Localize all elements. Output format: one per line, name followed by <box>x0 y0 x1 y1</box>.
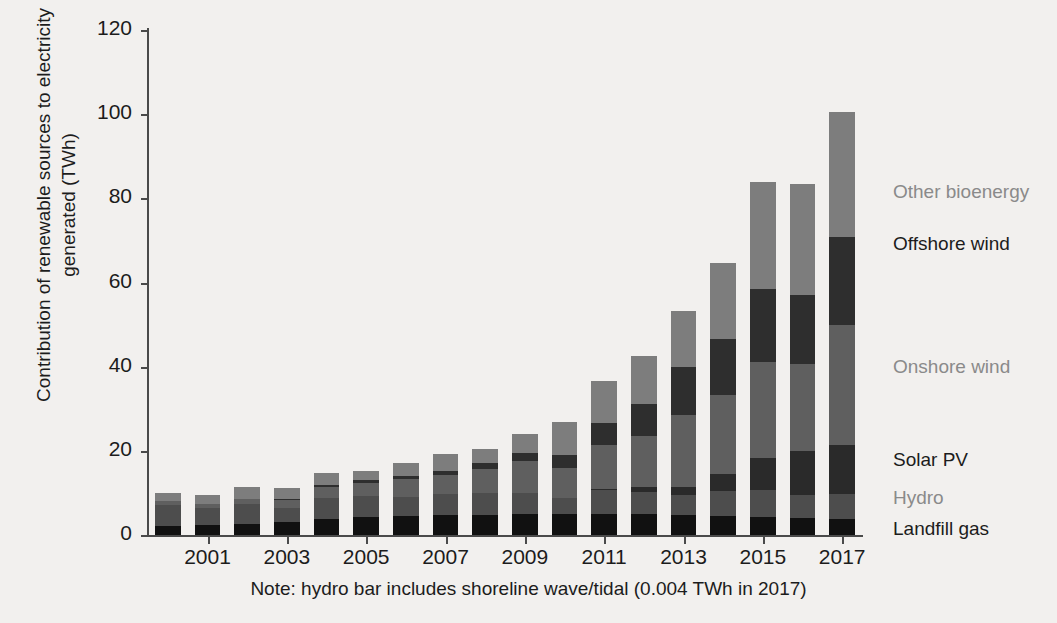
bar-segment-hydro[interactable] <box>790 495 815 518</box>
bar-segment-other-bioenergy[interactable] <box>314 473 339 485</box>
bar-segment-landfill-gas[interactable] <box>393 516 418 535</box>
bar-segment-landfill-gas[interactable] <box>155 526 180 535</box>
bar-2009[interactable] <box>512 30 537 535</box>
bar-segment-landfill-gas[interactable] <box>353 517 378 535</box>
bar-segment-onshore-wind[interactable] <box>710 395 735 473</box>
bar-segment-landfill-gas[interactable] <box>314 519 339 535</box>
bar-segment-onshore-wind[interactable] <box>790 364 815 452</box>
bar-2010[interactable] <box>552 30 577 535</box>
bar-segment-hydro[interactable] <box>155 505 180 526</box>
bar-2005[interactable] <box>353 30 378 535</box>
bar-segment-offshore-wind[interactable] <box>512 453 537 461</box>
bar-segment-solar-pv[interactable] <box>631 487 656 492</box>
bar-segment-hydro[interactable] <box>353 496 378 517</box>
bar-segment-landfill-gas[interactable] <box>512 514 537 535</box>
bar-segment-offshore-wind[interactable] <box>353 480 378 483</box>
bar-segment-offshore-wind[interactable] <box>829 237 854 325</box>
bar-2007[interactable] <box>433 30 458 535</box>
bar-2014[interactable] <box>710 30 735 535</box>
bar-segment-hydro[interactable] <box>314 498 339 518</box>
bar-segment-hydro[interactable] <box>472 493 497 514</box>
bar-segment-onshore-wind[interactable] <box>750 362 775 458</box>
bar-segment-landfill-gas[interactable] <box>472 515 497 535</box>
bar-segment-hydro[interactable] <box>710 491 735 516</box>
bar-segment-onshore-wind[interactable] <box>829 325 854 446</box>
bar-segment-hydro[interactable] <box>195 508 220 525</box>
bar-segment-hydro[interactable] <box>671 495 696 515</box>
bar-segment-landfill-gas[interactable] <box>829 519 854 535</box>
bar-2002[interactable] <box>234 30 259 535</box>
bar-2015[interactable] <box>750 30 775 535</box>
bar-segment-solar-pv[interactable] <box>829 445 854 493</box>
bar-2004[interactable] <box>314 30 339 535</box>
bar-2001[interactable] <box>195 30 220 535</box>
bar-segment-onshore-wind[interactable] <box>234 499 259 504</box>
bar-segment-onshore-wind[interactable] <box>671 415 696 487</box>
bar-segment-other-bioenergy[interactable] <box>710 263 735 339</box>
bar-segment-landfill-gas[interactable] <box>274 522 299 535</box>
bar-segment-solar-pv[interactable] <box>671 487 696 495</box>
bar-segment-onshore-wind[interactable] <box>433 475 458 494</box>
bar-segment-offshore-wind[interactable] <box>631 404 656 436</box>
bar-segment-other-bioenergy[interactable] <box>155 493 180 501</box>
bar-segment-offshore-wind[interactable] <box>552 455 577 468</box>
bar-segment-hydro[interactable] <box>591 490 616 514</box>
bar-segment-offshore-wind[interactable] <box>591 423 616 444</box>
bar-2013[interactable] <box>671 30 696 535</box>
bar-2017[interactable] <box>829 30 854 535</box>
bar-segment-solar-pv[interactable] <box>591 489 616 490</box>
bar-segment-landfill-gas[interactable] <box>671 515 696 535</box>
bar-segment-offshore-wind[interactable] <box>274 499 299 500</box>
bar-segment-landfill-gas[interactable] <box>631 514 656 535</box>
bar-segment-other-bioenergy[interactable] <box>472 449 497 463</box>
bar-segment-other-bioenergy[interactable] <box>829 112 854 237</box>
bar-segment-landfill-gas[interactable] <box>710 516 735 535</box>
bar-segment-landfill-gas[interactable] <box>195 525 220 535</box>
bar-segment-offshore-wind[interactable] <box>750 289 775 362</box>
bar-segment-solar-pv[interactable] <box>750 458 775 490</box>
bar-segment-offshore-wind[interactable] <box>433 471 458 474</box>
bar-segment-offshore-wind[interactable] <box>393 476 418 479</box>
bar-segment-other-bioenergy[interactable] <box>631 356 656 404</box>
bar-2016[interactable] <box>790 30 815 535</box>
bar-segment-onshore-wind[interactable] <box>591 445 616 489</box>
bar-segment-other-bioenergy[interactable] <box>552 422 577 455</box>
bar-segment-hydro[interactable] <box>274 508 299 521</box>
bar-segment-landfill-gas[interactable] <box>552 514 577 535</box>
bar-segment-offshore-wind[interactable] <box>710 339 735 395</box>
bar-segment-solar-pv[interactable] <box>790 451 815 495</box>
bar-2008[interactable] <box>472 30 497 535</box>
bar-2000[interactable] <box>155 30 180 535</box>
bar-segment-solar-pv[interactable] <box>710 474 735 491</box>
bar-segment-other-bioenergy[interactable] <box>591 381 616 423</box>
bar-segment-other-bioenergy[interactable] <box>234 487 259 498</box>
bar-segment-onshore-wind[interactable] <box>274 500 299 508</box>
bar-2006[interactable] <box>393 30 418 535</box>
bar-segment-landfill-gas[interactable] <box>591 514 616 535</box>
bar-segment-offshore-wind[interactable] <box>314 485 339 488</box>
bar-segment-landfill-gas[interactable] <box>750 517 775 535</box>
bar-segment-other-bioenergy[interactable] <box>274 488 299 499</box>
bar-segment-hydro[interactable] <box>631 492 656 514</box>
bar-segment-onshore-wind[interactable] <box>552 468 577 498</box>
bar-segment-offshore-wind[interactable] <box>671 367 696 415</box>
bar-segment-other-bioenergy[interactable] <box>750 182 775 289</box>
bar-segment-hydro[interactable] <box>552 498 577 513</box>
bar-segment-other-bioenergy[interactable] <box>393 463 418 476</box>
bar-segment-onshore-wind[interactable] <box>195 504 220 508</box>
bar-segment-onshore-wind[interactable] <box>472 469 497 493</box>
bar-segment-offshore-wind[interactable] <box>472 463 497 468</box>
bar-segment-onshore-wind[interactable] <box>155 501 180 505</box>
bar-segment-hydro[interactable] <box>393 497 418 516</box>
bar-segment-onshore-wind[interactable] <box>393 479 418 497</box>
bar-segment-hydro[interactable] <box>234 504 259 524</box>
bar-segment-other-bioenergy[interactable] <box>512 434 537 453</box>
bar-segment-landfill-gas[interactable] <box>234 524 259 535</box>
bar-2012[interactable] <box>631 30 656 535</box>
bar-segment-onshore-wind[interactable] <box>631 436 656 487</box>
bar-segment-onshore-wind[interactable] <box>314 487 339 498</box>
bar-segment-other-bioenergy[interactable] <box>671 311 696 367</box>
bar-2003[interactable] <box>274 30 299 535</box>
bar-segment-hydro[interactable] <box>512 493 537 514</box>
bar-2011[interactable] <box>591 30 616 535</box>
